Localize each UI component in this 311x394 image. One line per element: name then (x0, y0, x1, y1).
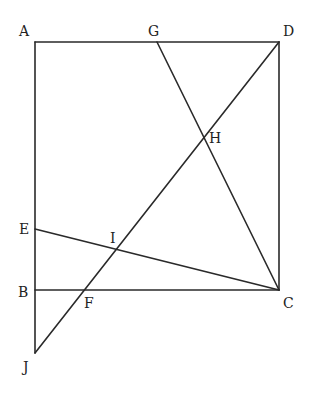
geometry-diagram: A B C D E F G H I J (0, 0, 311, 394)
label-G: G (148, 23, 159, 39)
label-H: H (209, 130, 221, 146)
label-J: J (21, 359, 29, 375)
label-C: C (283, 295, 294, 311)
segment-EC (35, 229, 279, 290)
label-I: I (110, 230, 116, 246)
segment-GC (157, 42, 279, 290)
label-A: A (18, 23, 30, 39)
segment-DJ (35, 42, 279, 353)
label-B: B (18, 284, 28, 300)
segments (35, 42, 279, 353)
label-D: D (283, 23, 294, 39)
label-F: F (84, 295, 94, 311)
label-E: E (19, 221, 29, 237)
